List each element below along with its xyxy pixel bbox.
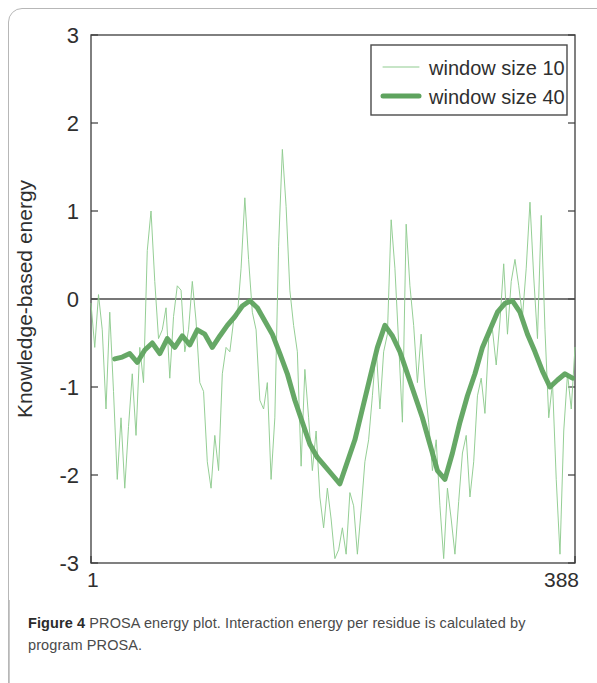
y-tick-label: 1 (67, 199, 79, 224)
figure-caption-text: PROSA energy plot. Interaction energy pe… (28, 615, 526, 653)
legend-label-2: window size 40 (428, 86, 565, 108)
y-tick-label: -3 (59, 551, 79, 576)
figure-caption: Figure 4 PROSA energy plot. Interaction … (28, 612, 548, 657)
y-axis-label: Knowledge-based energy (13, 179, 36, 418)
x-tick-label: 388 (544, 568, 579, 591)
prosa-energy-plot: 3210-1-2-31388Sequence positionKnowledge… (0, 0, 597, 600)
y-tick-label: -2 (59, 463, 79, 488)
legend-label-1: window size 10 (428, 57, 565, 79)
x-tick-label: 1 (87, 568, 99, 591)
column-rule (9, 600, 10, 683)
chart-legend: window size 10window size 40 (371, 45, 567, 115)
figure-label: Figure 4 (28, 615, 85, 631)
y-tick-label: -1 (59, 375, 79, 400)
chart-svg: 3210-1-2-31388Sequence positionKnowledge… (0, 0, 597, 600)
y-tick-label: 2 (67, 111, 79, 136)
y-tick-label: 0 (67, 287, 79, 312)
y-tick-label: 3 (67, 23, 79, 48)
